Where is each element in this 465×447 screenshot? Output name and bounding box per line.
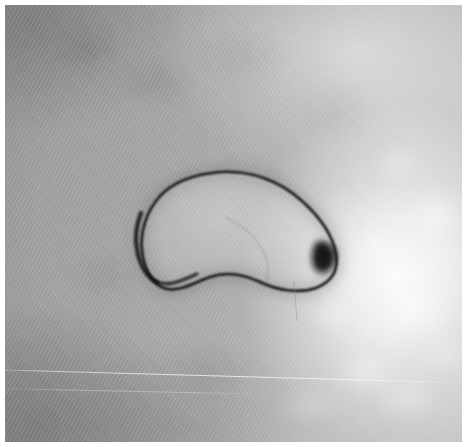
vesicle-interior	[142, 172, 337, 291]
vesicle-layer	[5, 5, 462, 442]
micrograph-image	[5, 5, 462, 442]
micrograph-viewport: grayscale transmission electron microgra…	[0, 0, 465, 447]
